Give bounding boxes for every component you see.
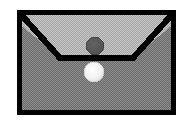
light-seal-marker	[84, 62, 104, 82]
envelope-icon: Envelope with dark circle on flap and wh…	[0, 0, 191, 127]
dark-seal-marker	[86, 37, 104, 55]
figure-canvas: Envelope Icon Grayscale dithered envelop…	[0, 0, 191, 127]
